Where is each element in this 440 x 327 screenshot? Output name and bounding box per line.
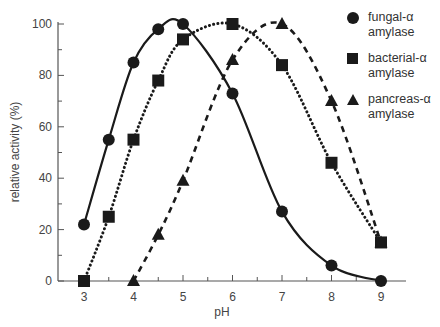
legend-label-line1: fungal-α (368, 10, 415, 25)
x-tick-label: 9 (378, 290, 385, 304)
legend-label-line1: bacterial-α (368, 51, 427, 66)
square-marker-icon (346, 52, 360, 66)
y-axis-title: relative activity (%) (8, 102, 22, 203)
y-tick-label: 100 (32, 17, 52, 31)
circle-marker (128, 57, 140, 69)
circle-marker (177, 18, 189, 30)
y-tick-label: 60 (39, 120, 53, 134)
circle-marker (78, 218, 90, 230)
legend-item-fungal: fungal-α amylase (346, 10, 431, 40)
x-axis-title: pH (214, 305, 229, 319)
legend-label-line2: amylase (368, 107, 431, 122)
y-tick-label: 20 (39, 223, 53, 237)
x-tick-label: 5 (180, 290, 187, 304)
x-tick-label: 4 (130, 290, 137, 304)
circle-marker (227, 87, 239, 99)
square-marker (177, 33, 189, 45)
legend: fungal-α amylase bacterial-α amylase pan… (346, 10, 431, 133)
legend-label-line2: amylase (368, 66, 427, 81)
x-tick-label: 6 (229, 290, 236, 304)
circle-marker (375, 275, 387, 287)
triangle-marker (325, 94, 338, 106)
y-tick-label: 40 (39, 171, 53, 185)
square-marker (227, 18, 239, 30)
square-marker (326, 157, 338, 169)
circle-marker-icon (346, 11, 360, 25)
triangle-marker (127, 274, 140, 286)
x-tick-label: 8 (328, 290, 335, 304)
square-marker (78, 275, 90, 287)
square-marker (128, 134, 140, 146)
x-tick-label: 3 (81, 290, 88, 304)
circle-marker (152, 23, 164, 35)
y-tick-label: 80 (39, 68, 53, 82)
legend-item-pancreas: pancreas-α amylase (346, 92, 431, 122)
legend-label-line1: pancreas-α (368, 92, 431, 107)
legend-label-line2: amylase (368, 25, 415, 40)
y-tick-label: 0 (45, 274, 52, 288)
legend-item-bacterial: bacterial-α amylase (346, 51, 431, 81)
triangle-marker (276, 17, 289, 29)
circle-marker (276, 206, 288, 218)
x-tick-label: 7 (279, 290, 286, 304)
triangle-marker (177, 174, 190, 186)
square-marker (152, 75, 164, 87)
data-series (78, 17, 388, 287)
triangle-marker-icon (346, 93, 360, 107)
circle-marker (326, 260, 338, 272)
square-marker (103, 211, 115, 223)
triangle-marker (152, 228, 165, 240)
square-marker (276, 59, 288, 71)
circle-marker (103, 134, 115, 146)
triangle-marker (226, 53, 239, 65)
